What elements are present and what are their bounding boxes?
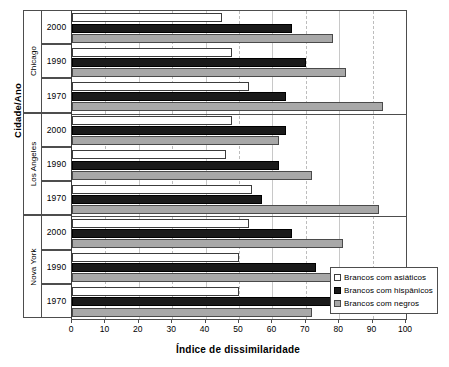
x-tick-30 <box>171 319 172 323</box>
year-cell: 2000 <box>41 10 71 44</box>
x-tick-label-50: 50 <box>223 324 253 334</box>
year-label: 1990 <box>42 56 71 66</box>
bar-negros <box>72 273 339 282</box>
city-separator <box>72 114 406 115</box>
bar-negros <box>72 239 343 248</box>
city-group-los-angeles: Los Angeles <box>23 113 41 216</box>
bar-negros <box>72 68 346 77</box>
legend-item[interactable]: Brancos com asiáticos <box>334 271 433 284</box>
legend-label: Brancos com negros <box>344 299 419 308</box>
legend-swatch-icon <box>334 287 341 294</box>
bar-negros <box>72 205 379 214</box>
legend-label: Brancos com asiáticos <box>344 273 426 282</box>
x-tick-100 <box>405 319 406 323</box>
x-tick-10 <box>104 319 105 323</box>
x-tick-90 <box>372 319 373 323</box>
year-label: 1990 <box>42 262 71 272</box>
bar-hispanicos <box>72 24 292 33</box>
bar-negros <box>72 102 383 111</box>
year-cell: 2000 <box>41 113 71 147</box>
year-cell: 1990 <box>41 250 71 284</box>
year-cell: 1990 <box>41 147 71 181</box>
city-group-chicago: Chicago <box>23 10 41 113</box>
year-cell: 1990 <box>41 44 71 78</box>
legend-swatch-icon <box>334 274 341 281</box>
x-tick-label-70: 70 <box>290 324 320 334</box>
bar-negros <box>72 34 333 43</box>
bar-negros <box>72 308 312 317</box>
bar-hispanicos <box>72 229 292 238</box>
bar-hispanicos <box>72 126 286 135</box>
bar-hispanicos <box>72 263 316 272</box>
dissimilarity-index-chart: Cidade/Ano ChicagoLos AngelesNova York 2… <box>0 0 449 367</box>
x-tick-label-10: 10 <box>89 324 119 334</box>
bar-hispanicos <box>72 92 286 101</box>
legend-swatch-icon <box>334 300 341 307</box>
year-cell: 1970 <box>41 284 71 318</box>
bar-asiaticos <box>72 287 239 296</box>
bar-hispanicos <box>72 58 306 67</box>
bar-hispanicos <box>72 195 262 204</box>
year-cell: 1970 <box>41 78 71 112</box>
year-label: 2000 <box>42 125 71 135</box>
bar-negros <box>72 171 312 180</box>
bar-hispanicos <box>72 161 279 170</box>
x-tick-label-40: 40 <box>190 324 220 334</box>
bar-asiaticos <box>72 185 252 194</box>
x-tick-80 <box>338 319 339 323</box>
legend-item[interactable]: Brancos com hispânicos <box>334 284 433 297</box>
bar-asiaticos <box>72 48 232 57</box>
year-label: 2000 <box>42 22 71 32</box>
bar-asiaticos <box>72 13 222 22</box>
legend-label: Brancos com hispânicos <box>344 286 433 295</box>
bar-negros <box>72 136 279 145</box>
city-label: Nova York <box>28 248 37 285</box>
x-tick-60 <box>271 319 272 323</box>
year-label: 1990 <box>42 159 71 169</box>
bar-hispanicos <box>72 297 333 306</box>
year-label: 1970 <box>42 91 71 101</box>
x-axis-title: Índice de dissimilaridade <box>71 344 405 355</box>
city-separator <box>72 216 406 217</box>
x-tick-0 <box>71 319 72 323</box>
x-tick-label-90: 90 <box>357 324 387 334</box>
chart-legend: Brancos com asiáticosBrancos com hispâni… <box>330 267 438 314</box>
year-label: 1970 <box>42 193 71 203</box>
year-cell: 1970 <box>41 181 71 215</box>
year-cell: 2000 <box>41 215 71 249</box>
bar-asiaticos <box>72 219 249 228</box>
city-label: Los Angeles <box>28 142 37 187</box>
x-tick-20 <box>138 319 139 323</box>
city-label: Chicago <box>28 46 37 76</box>
x-tick-label-0: 0 <box>56 324 86 334</box>
year-label: 1970 <box>42 296 71 306</box>
x-tick-label-30: 30 <box>156 324 186 334</box>
x-tick-label-80: 80 <box>323 324 353 334</box>
bar-asiaticos <box>72 150 226 159</box>
bar-asiaticos <box>72 253 239 262</box>
x-tick-50 <box>238 319 239 323</box>
x-tick-label-20: 20 <box>123 324 153 334</box>
x-tick-40 <box>205 319 206 323</box>
city-group-nova-york: Nova York <box>23 215 41 318</box>
bar-asiaticos <box>72 82 249 91</box>
x-tick-70 <box>305 319 306 323</box>
x-tick-label-60: 60 <box>256 324 286 334</box>
y-axis-title: Cidade/Ano <box>12 56 23 166</box>
x-tick-label-100: 100 <box>390 324 420 334</box>
year-label: 2000 <box>42 227 71 237</box>
legend-item[interactable]: Brancos com negros <box>334 297 433 310</box>
bar-asiaticos <box>72 116 232 125</box>
